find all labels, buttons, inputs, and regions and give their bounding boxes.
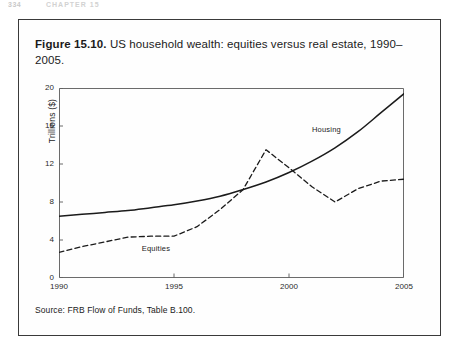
- x-tick-label-2005: 2005: [384, 282, 424, 291]
- y-tick-label-8: 8: [34, 197, 54, 206]
- figure-box: Figure 15.10. US household wealth: equit…: [18, 19, 441, 336]
- series-label-equities: Equities: [142, 244, 170, 253]
- page-header-strip: 334 CHAPTER 15: [0, 0, 453, 14]
- y-tick-label-20: 20: [34, 83, 54, 92]
- y-tick-label-12: 12: [34, 159, 54, 168]
- series-line-equities: [59, 150, 404, 253]
- y-tick-label-4: 4: [34, 235, 54, 244]
- y-tick-label-0: 0: [34, 273, 54, 282]
- chart-axes: [60, 89, 404, 278]
- chart-svg: [59, 88, 404, 278]
- page-folio: 334: [8, 1, 21, 8]
- figure-caption-label: Figure 15.10.: [35, 38, 107, 50]
- running-head: CHAPTER 15: [46, 1, 100, 8]
- series-label-housing: Housing: [312, 125, 341, 134]
- series-line-housing: [59, 94, 404, 217]
- figure-caption: Figure 15.10. US household wealth: equit…: [35, 36, 417, 68]
- chart-tick-marks: [59, 88, 404, 278]
- source-note: Source: FRB Flow of Funds, Table B.100.: [35, 305, 195, 315]
- chart-plot-area: Trillions ($) 048121620 1990199520002005…: [59, 88, 404, 278]
- y-tick-label-16: 16: [34, 121, 54, 130]
- x-tick-label-2000: 2000: [269, 282, 309, 291]
- chart-series-lines: [59, 94, 404, 253]
- x-tick-label-1995: 1995: [154, 282, 194, 291]
- x-tick-label-1990: 1990: [39, 282, 79, 291]
